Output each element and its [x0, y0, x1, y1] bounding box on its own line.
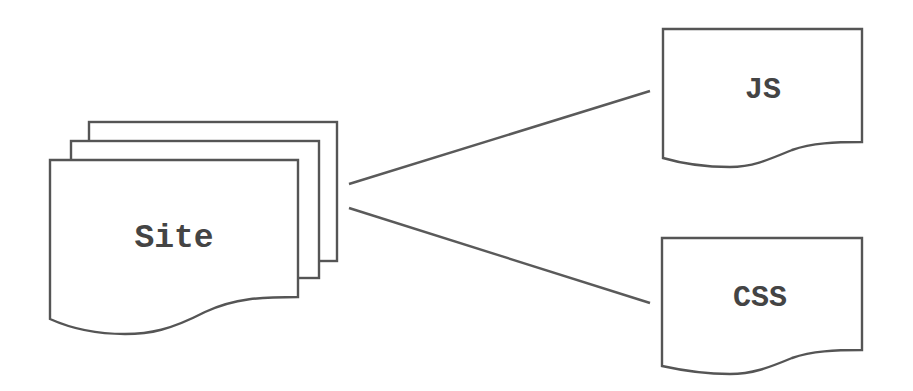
node-css[interactable]: CSS [662, 238, 862, 374]
edge-site-to-js [349, 91, 650, 184]
node-site[interactable]: Site [50, 122, 337, 334]
node-js[interactable]: JS [663, 29, 862, 167]
site-label: Site [134, 220, 213, 257]
diagram-canvas: Site JS CSS [0, 0, 913, 391]
edge-site-to-css [349, 208, 650, 303]
js-label: JS [745, 73, 781, 107]
css-label: CSS [733, 281, 787, 315]
